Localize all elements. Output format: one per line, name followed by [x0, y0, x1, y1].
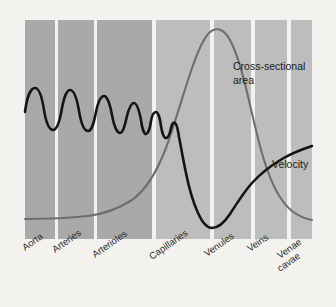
band-group: [25, 20, 312, 239]
cross-sectional-area-label-line2: area: [233, 74, 254, 86]
band-venules: [214, 20, 251, 239]
vascular-hemodynamics-chart: Cross-sectional area Velocity Aorta Arte…: [0, 0, 336, 307]
band-arteries: [58, 20, 94, 239]
band-veins: [255, 20, 287, 239]
velocity-annotation: Velocity: [272, 158, 309, 170]
band-venae-cavae: [291, 20, 312, 239]
velocity-label: Velocity: [272, 158, 309, 170]
cross-sectional-area-label-line1: Cross-sectional: [233, 60, 305, 72]
band-capillaries: [156, 20, 210, 239]
figure-container: Cross-sectional area Velocity Aorta Arte…: [0, 0, 336, 307]
